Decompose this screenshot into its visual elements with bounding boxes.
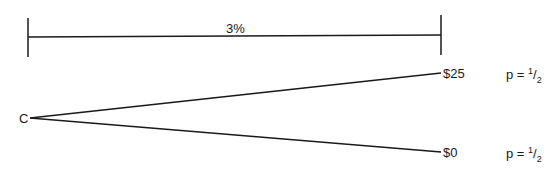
prob-numerator: 1	[528, 145, 533, 155]
origin-label: C	[19, 112, 28, 125]
upper-branch	[30, 73, 441, 118]
prob-prefix: p =	[506, 67, 528, 82]
outcome-upper-probability: p = 1/2	[506, 67, 542, 85]
rate-label: 3%	[226, 22, 245, 35]
prob-denominator: 2	[537, 154, 542, 164]
lower-branch	[30, 118, 441, 152]
outcome-lower-value: $0	[443, 146, 457, 159]
prob-prefix: p =	[506, 146, 528, 161]
outcome-lower-probability: p = 1/2	[506, 146, 542, 164]
outcome-upper-value: $25	[443, 67, 465, 80]
decision-tree-diagram	[0, 0, 556, 181]
prob-denominator: 2	[537, 75, 542, 85]
prob-numerator: 1	[528, 66, 533, 76]
